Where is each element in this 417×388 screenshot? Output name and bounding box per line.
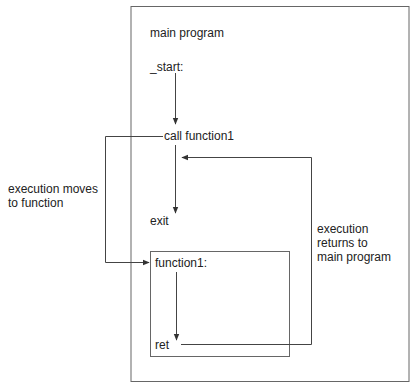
call-function-label: call function1	[164, 129, 234, 143]
call-to-function-connector	[106, 137, 164, 263]
execution-returns-annotation: execution returns to main program	[317, 222, 391, 264]
start-label: _start:	[150, 60, 183, 74]
ret-label: ret	[155, 338, 169, 352]
main-program-title: main program	[150, 26, 224, 40]
execution-moves-annotation: execution moves to function	[8, 182, 98, 210]
exit-label: exit	[150, 214, 169, 228]
function1-label: function1:	[155, 256, 207, 270]
